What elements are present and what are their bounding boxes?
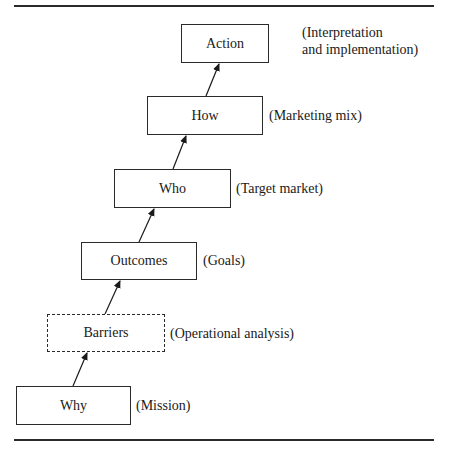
arrow-how-to-action: [206, 64, 219, 96]
step-note-barriers-line-1: (Operational analysis): [170, 325, 294, 342]
arrow-barriers-to-outcomes: [105, 281, 120, 314]
step-note-action: (Interpretation and implementation): [302, 24, 418, 58]
top-rule: [14, 5, 434, 7]
step-note-who: (Target market): [236, 180, 323, 197]
step-label-barriers: Barriers: [83, 325, 128, 341]
arrow-why-to-barriers: [73, 353, 87, 386]
step-note-action-line-1: (Interpretation: [302, 24, 418, 41]
step-label-who: Who: [159, 181, 186, 197]
arrow-who-to-how: [173, 136, 186, 169]
step-label-outcomes: Outcomes: [111, 253, 168, 269]
arrow-outcomes-to-who: [139, 209, 154, 242]
step-box-action: Action: [181, 24, 269, 63]
step-note-outcomes: (Goals): [203, 252, 245, 269]
step-box-who: Who: [114, 169, 231, 208]
step-box-how: How: [147, 96, 263, 135]
step-box-outcomes: Outcomes: [81, 242, 197, 280]
step-note-why: (Mission): [136, 397, 190, 414]
step-label-why: Why: [60, 398, 87, 414]
step-note-who-line-1: (Target market): [236, 180, 323, 197]
step-note-how: (Marketing mix): [269, 107, 362, 124]
step-label-action: Action: [206, 36, 244, 52]
step-label-how: How: [191, 108, 218, 124]
step-note-how-line-1: (Marketing mix): [269, 107, 362, 124]
step-box-barriers: Barriers: [47, 314, 165, 352]
step-note-why-line-1: (Mission): [136, 397, 190, 414]
step-note-outcomes-line-1: (Goals): [203, 252, 245, 269]
step-note-barriers: (Operational analysis): [170, 325, 294, 342]
bottom-rule: [14, 439, 434, 441]
step-note-action-line-2: and implementation): [302, 41, 418, 58]
step-box-why: Why: [16, 386, 131, 425]
